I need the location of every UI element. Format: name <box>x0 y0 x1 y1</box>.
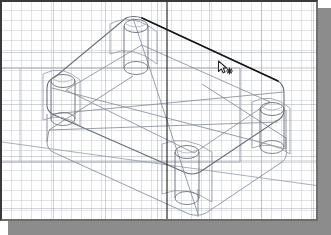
boss-cylinder-left[interactable] <box>43 70 80 126</box>
boss-cylinder-top[interactable] <box>110 20 157 75</box>
boss-cylinder-bottom[interactable] <box>162 140 212 204</box>
work-plane-rectangle <box>2 68 240 162</box>
cad-application <box>0 0 331 235</box>
model-wireframe[interactable] <box>2 2 318 221</box>
drawing-viewport[interactable] <box>0 0 318 221</box>
selected-edge-top-right[interactable] <box>142 18 278 81</box>
